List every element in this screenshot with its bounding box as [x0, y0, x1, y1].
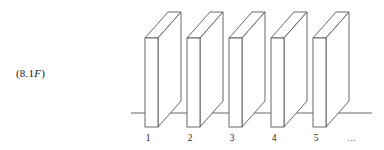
slab-group-5 [313, 12, 349, 127]
slab-group-2 [187, 12, 223, 127]
tick-label-1: 1 [146, 133, 151, 143]
tick-label-4: 4 [272, 133, 277, 143]
slab-group-1 [145, 12, 181, 127]
slab-2-front-face [187, 38, 200, 127]
slab-4-front-face [271, 38, 284, 127]
slab-group-4 [271, 12, 307, 127]
slab-sequence-diagram: 1 2 3 4 5 ... [0, 0, 384, 150]
slab-1-front-face [145, 38, 158, 127]
slab-5-front-face [313, 38, 326, 127]
tick-label-5: 5 [314, 133, 319, 143]
tick-label-2: 2 [188, 133, 193, 143]
tick-label-3: 3 [230, 133, 235, 143]
slab-3-front-face [229, 38, 242, 127]
slab-group-3 [229, 12, 265, 127]
tick-label-ellipsis: ... [347, 133, 357, 143]
figure-container: (8.1F) 1 2 3 [0, 0, 384, 150]
